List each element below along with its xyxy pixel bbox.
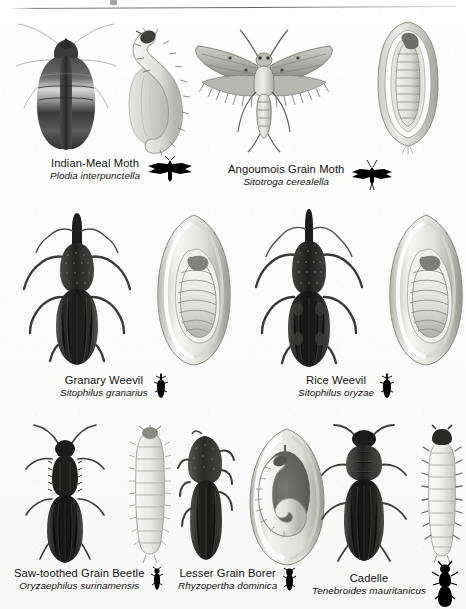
top-divider-rule — [10, 6, 456, 9]
insect-plate: Indian-Meal Moth Plodia interpunctella — [0, 0, 466, 609]
common-name: Rice Weevil — [306, 374, 366, 387]
scientific-name: Sitophilus granarius — [60, 387, 148, 398]
adult-weevil-dorsal-illustration — [250, 205, 368, 375]
caption-lesser-grain-borer: Lesser Grain Borer Rhyzopertha dominica — [178, 567, 296, 591]
figure-group — [14, 425, 178, 567]
common-name: Cadelle — [350, 572, 389, 585]
common-name: Angoumois Grain Moth — [228, 163, 344, 176]
scientific-name: Oryzaephilus surinamensis — [19, 580, 139, 591]
figure-group — [14, 16, 192, 156]
caption-indian-meal-moth: Indian-Meal Moth Plodia interpunctella — [50, 156, 194, 182]
scientific-name: Sitophilus oryzae — [298, 387, 374, 398]
beetle-silhouette-icon — [151, 567, 163, 591]
scientific-name: Sitotroga cerealella — [243, 176, 329, 187]
common-name: Indian-Meal Moth — [51, 157, 139, 170]
adult-moth-dorsal-illustration — [190, 26, 336, 154]
grain-kernel-cutaway-with-larva-illustration — [148, 211, 240, 369]
adult-weevil-dorsal-illustration — [18, 205, 136, 375]
larva-dorsal-illustration — [122, 425, 178, 565]
adult-beetle-dorsal-illustration — [318, 425, 410, 565]
caption-rice-weevil: Rice Weevil Sitophilus oryzae — [298, 373, 394, 399]
caption-granary-weevil: Granary Weevil Sitophilus granarius — [60, 373, 168, 399]
beetle-silhouette-icon — [283, 567, 296, 591]
species-row-3: Saw-toothed Grain Beetle Oryzaephilus su… — [0, 425, 466, 609]
figure-group — [318, 425, 466, 565]
figure-group — [190, 18, 444, 154]
common-name: Lesser Grain Borer — [179, 567, 275, 580]
caption-cadelle: Cadelle Tenebroides mauritanicus — [312, 561, 458, 607]
beetle-silhouette-icon — [432, 561, 458, 607]
scientific-name: Rhyzopertha dominica — [178, 580, 277, 591]
figure-group — [178, 427, 330, 567]
caption-saw-toothed-grain-beetle: Saw-toothed Grain Beetle Oryzaephilus su… — [14, 567, 163, 591]
weevil-silhouette-icon — [154, 373, 168, 399]
scientific-name: Plodia interpunctella — [50, 170, 140, 181]
common-name: Granary Weevil — [65, 374, 143, 387]
larva-dorsal-illustration — [416, 425, 466, 565]
larva-on-grain-illustration — [122, 24, 192, 156]
moth-silhouette-icon — [350, 160, 394, 190]
common-name: Saw-toothed Grain Beetle — [14, 567, 145, 580]
grain-kernel-cutaway-with-larva-illustration — [372, 18, 444, 154]
species-row-2: Granary Weevil Sitophilus granarius — [0, 205, 466, 405]
grain-kernel-cutaway-with-larva-illustration — [380, 211, 466, 369]
adult-beetle-dorsal-illustration — [14, 425, 116, 567]
moth-silhouette-icon — [146, 156, 194, 182]
top-edge-mark — [110, 0, 117, 5]
adult-moth-dorsal-illustration — [14, 16, 118, 156]
figure-group — [250, 205, 466, 375]
scientific-name: Tenebroides mauritanicus — [312, 585, 426, 596]
weevil-silhouette-icon — [380, 373, 394, 399]
adult-beetle-lateral-illustration — [178, 430, 234, 564]
caption-angoumois-grain-moth: Angoumois Grain Moth Sitotroga cerealell… — [228, 160, 394, 190]
species-row-1: Indian-Meal Moth Plodia interpunctella — [0, 16, 466, 198]
figure-group — [18, 205, 240, 375]
